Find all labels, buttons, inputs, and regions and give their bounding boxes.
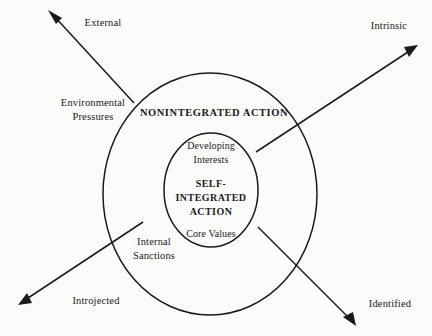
- label-intrinsic: Intrinsic: [371, 20, 408, 31]
- introjected-arrow-shaft: [25, 222, 143, 300]
- label-core-values: Core Values: [186, 228, 236, 239]
- label-identified: Identified: [369, 298, 412, 309]
- identified-arrow-shaft: [258, 227, 350, 319]
- intrinsic-arrow: [256, 45, 418, 152]
- label-nonintegrated-action: NONINTEGRATED ACTION: [140, 107, 288, 118]
- label-self-integrated-action-line1: SELF-: [196, 178, 227, 189]
- intrinsic-arrow-head: [404, 45, 418, 57]
- diagram-svg: External Intrinsic Introjected Identifie…: [0, 0, 432, 336]
- label-external: External: [85, 17, 122, 28]
- introjected-arrow: [18, 222, 143, 305]
- external-arrow-shaft: [54, 16, 134, 103]
- label-environmental-pressures-line2: Pressures: [72, 111, 113, 122]
- label-self-integrated-action-line2: INTEGRATED: [176, 192, 247, 203]
- diagram-canvas: External Intrinsic Introjected Identifie…: [0, 0, 432, 336]
- label-internal-sanctions-line2: Sanctions: [133, 250, 175, 261]
- label-self-integrated-action-line3: ACTION: [190, 206, 233, 217]
- introjected-arrow-head: [18, 293, 32, 305]
- label-introjected: Introjected: [72, 295, 120, 306]
- label-environmental-pressures-line1: Environmental: [61, 97, 125, 108]
- label-developing-interests-line2: Interests: [194, 154, 229, 165]
- label-developing-interests-line1: Developing: [187, 140, 235, 151]
- identified-arrow: [258, 227, 356, 326]
- label-internal-sanctions-line1: Internal: [137, 236, 171, 247]
